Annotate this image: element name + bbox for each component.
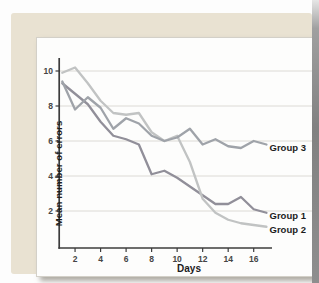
scanned-figure-page: Mean number of errors 246810121416246810…	[0, 0, 319, 283]
x-tick-label: 2	[73, 254, 78, 264]
figure-panel: Mean number of errors 246810121416246810…	[11, 13, 312, 274]
x-tick-label: 6	[124, 254, 129, 264]
series-label-group-3: Group 3	[270, 142, 306, 153]
chart-box: Mean number of errors 246810121416246810…	[36, 37, 315, 277]
x-axis-title: Days	[177, 263, 201, 274]
y-tick-label: 10	[44, 66, 54, 76]
x-tick-label: 14	[223, 254, 233, 264]
series-label-group-1: Group 1	[270, 210, 307, 221]
x-tick-label: 4	[98, 254, 103, 264]
series-label-group-2: Group 2	[270, 224, 306, 235]
x-tick-label: 8	[149, 254, 154, 264]
page-scan-edge	[312, 0, 319, 283]
x-tick-label: 16	[249, 254, 259, 264]
y-axis-title: Mean number of errors	[53, 84, 64, 264]
line-chart: 246810121416246810Group 1Group 2Group 3D…	[37, 38, 316, 278]
